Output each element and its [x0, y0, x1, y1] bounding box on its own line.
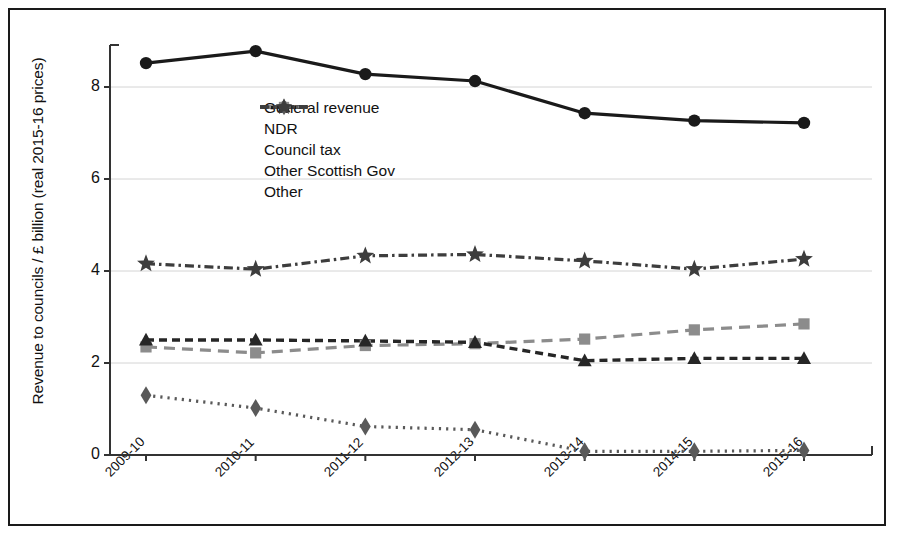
chart-plot-area [0, 0, 901, 541]
legend-item-council-tax[interactable]: Council tax [258, 139, 395, 160]
legend-item-other[interactable]: Other [258, 181, 395, 202]
data-point-marker [356, 246, 374, 263]
legend-label: Other [264, 183, 303, 201]
data-point-marker [360, 417, 371, 435]
data-point-marker [250, 399, 261, 417]
data-point-marker [688, 114, 700, 126]
data-point-marker [249, 45, 261, 57]
data-point-marker [141, 386, 152, 404]
data-point-marker [466, 245, 484, 262]
data-point-marker [799, 441, 810, 459]
data-point-marker [687, 351, 701, 364]
legend-item-other-scottish-gov[interactable]: Other Scottish Gov [258, 160, 395, 181]
data-point-marker [276, 98, 292, 114]
data-point-marker [470, 421, 481, 439]
data-point-marker [250, 347, 261, 358]
legend-swatch-icon [258, 97, 310, 117]
legend-label: Council tax [264, 141, 341, 159]
legend-item-ndr[interactable]: NDR [258, 118, 395, 139]
data-point-marker [795, 250, 813, 267]
data-point-marker [137, 254, 155, 271]
data-point-marker [689, 324, 700, 335]
data-point-marker [247, 260, 265, 277]
legend-label: NDR [264, 120, 298, 138]
data-point-marker [140, 57, 152, 69]
data-point-marker [579, 442, 590, 460]
chart-legend: General revenueNDRCouncil taxOther Scott… [258, 97, 395, 202]
data-point-marker [578, 107, 590, 119]
data-point-marker [685, 260, 703, 277]
data-point-marker [469, 75, 481, 87]
data-point-marker [579, 333, 590, 344]
legend-label: Other Scottish Gov [264, 162, 395, 180]
data-point-marker [798, 117, 810, 129]
data-point-marker [576, 251, 594, 268]
data-point-marker [359, 68, 371, 80]
data-point-marker [798, 318, 809, 329]
data-point-marker [689, 442, 700, 460]
chart-canvas: Revenue to councils / £ billion (real 20… [0, 0, 901, 541]
